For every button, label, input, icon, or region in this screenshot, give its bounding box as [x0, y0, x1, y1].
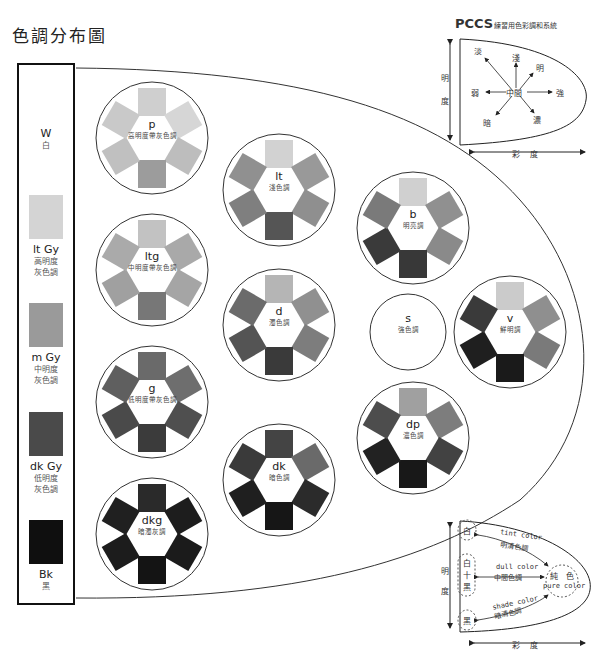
tone-label-dkg: dkg暗濁灰調	[102, 514, 202, 537]
tone-swatch	[138, 484, 166, 512]
pccs-center: 中間	[506, 87, 522, 98]
pccs-dir-weak: 弱	[471, 87, 479, 98]
tone-swatch	[496, 282, 524, 310]
concept-black: 黑	[463, 615, 471, 626]
pccs-axis-lightness-1: 明	[441, 72, 449, 83]
tone-name: 強色調	[358, 325, 458, 335]
tone-swatch	[399, 388, 427, 416]
concept-dull-zh: 中間色調	[494, 572, 522, 582]
pccs-axis-chroma-2: 度	[530, 148, 538, 159]
concept-pure-en: pure color	[543, 582, 585, 590]
tone-swatch	[399, 460, 427, 488]
tone-code: dk	[229, 460, 329, 473]
tone-label-s: s強色調	[358, 312, 458, 335]
tone-label-d: d濁色調	[229, 305, 329, 328]
tone-code: ltg	[102, 250, 202, 263]
tone-swatch	[399, 250, 427, 278]
tone-swatch	[265, 430, 293, 458]
tone-label-b: b明亮調	[363, 208, 463, 231]
pccs-dir-light: 淺	[512, 52, 520, 63]
tone-code: p	[102, 118, 202, 131]
pccs-dir-strong: 強	[556, 87, 564, 98]
tone-swatch	[138, 220, 166, 248]
pccs-title: PCCS	[455, 16, 493, 31]
concept-axis-lightness-2: 度	[441, 585, 449, 596]
concept-axis-lightness-1: 明	[441, 565, 449, 576]
tone-code: v	[460, 312, 560, 325]
tone-code: dkg	[102, 514, 202, 527]
tone-name: 低明度帶灰色調	[102, 395, 202, 405]
tone-swatch	[496, 354, 524, 382]
tone-name: 暗濁灰調	[102, 527, 202, 537]
tone-swatch	[138, 160, 166, 188]
tone-swatch	[265, 502, 293, 530]
tone-swatch	[265, 140, 293, 168]
tone-name: 暗色調	[229, 473, 329, 483]
tone-code: b	[363, 208, 463, 221]
tone-label-p: p高明度帶灰色調	[102, 118, 202, 141]
pccs-dir-bright: 明	[536, 62, 544, 73]
pccs-dir-dark: 暗	[483, 117, 491, 128]
pccs-dir-pale: 淡	[474, 45, 482, 56]
pccs-subtitle: 練習用色彩調和系統	[494, 20, 557, 30]
tone-name: 淺色調	[229, 183, 329, 193]
tone-swatch	[138, 88, 166, 116]
tone-name: 中明度帶灰色調	[102, 263, 202, 273]
tone-label-v: v鮮明調	[460, 312, 560, 335]
tone-name: 濃色調	[363, 431, 463, 441]
pccs-axis-lightness-2: 度	[441, 95, 449, 106]
tone-label-ltg: ltg中明度帶灰色調	[102, 250, 202, 273]
tone-label-dp: dp濃色調	[363, 418, 463, 441]
tone-code: lt	[229, 170, 329, 183]
tone-swatch	[265, 212, 293, 240]
pccs-dir-deep: 濃	[533, 114, 541, 125]
concept-dull-en: dull color	[496, 563, 538, 571]
tone-swatch	[138, 292, 166, 320]
tone-name: 濁色調	[229, 318, 329, 328]
tone-swatch	[138, 352, 166, 380]
concept-pure: 純 色	[550, 570, 574, 581]
tone-label-lt: lt淺色調	[229, 170, 329, 193]
tone-label-dk: dk暗色調	[229, 460, 329, 483]
tone-name: 明亮調	[363, 221, 463, 231]
concept-wb-2: 十	[463, 569, 471, 580]
tone-swatch	[265, 347, 293, 375]
pccs-axis-chroma-1: 彩	[512, 148, 520, 159]
tone-name: 鮮明調	[460, 325, 560, 335]
tone-code: s	[358, 312, 458, 325]
concept-wb-3: 黑	[463, 581, 471, 592]
concept-axis-chroma-1: 彩	[512, 639, 520, 650]
tone-code: g	[102, 382, 202, 395]
concept-axis-chroma-2: 度	[530, 639, 538, 650]
concept-wb-1: 白	[463, 557, 471, 568]
tone-label-g: g低明度帶灰色調	[102, 382, 202, 405]
concept-white: 白	[463, 525, 471, 536]
tone-swatch	[138, 424, 166, 452]
tone-name: 高明度帶灰色調	[102, 131, 202, 141]
tone-code: dp	[363, 418, 463, 431]
tone-code: d	[229, 305, 329, 318]
tone-swatch	[265, 275, 293, 303]
tone-swatch	[399, 178, 427, 206]
tone-swatch	[138, 556, 166, 584]
